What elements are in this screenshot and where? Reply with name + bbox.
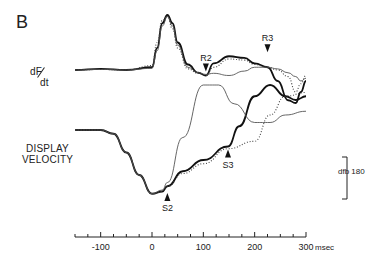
annotation-r2: R2 bbox=[200, 53, 212, 63]
chart-canvas: R2R3S2S3dfb 180-1000100200300msec bbox=[0, 0, 384, 267]
trace-dF-dt-dotted bbox=[75, 16, 306, 92]
scale-bar bbox=[342, 157, 347, 199]
x-tick-label: 100 bbox=[196, 242, 211, 252]
trace-display-velocity-thick bbox=[75, 85, 306, 194]
marker-s2-icon bbox=[164, 193, 170, 201]
annotation-s3: S3 bbox=[222, 160, 233, 170]
x-tick-label: 0 bbox=[149, 242, 154, 252]
marker-r3-icon bbox=[265, 44, 271, 52]
annotation-r3: R3 bbox=[262, 33, 274, 43]
trace-label-dfb: dfb 180 bbox=[338, 167, 365, 176]
x-tick-label: 200 bbox=[247, 242, 262, 252]
x-tick-label: 300 bbox=[298, 242, 313, 252]
x-tick-label: -100 bbox=[92, 242, 110, 252]
trace-display-velocity-dotted bbox=[75, 93, 306, 194]
trace-dF-dt-thick bbox=[75, 15, 306, 103]
trace-display-velocity-thin bbox=[75, 85, 306, 194]
x-axis-unit: msec bbox=[315, 243, 334, 252]
marker-r2-icon bbox=[203, 64, 209, 72]
marker-s3-icon bbox=[225, 150, 231, 158]
annotation-s2: S2 bbox=[162, 203, 173, 213]
